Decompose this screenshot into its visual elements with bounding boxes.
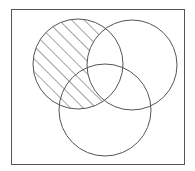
venn-diagram (0, 0, 195, 171)
shaded-region (0, 0, 195, 171)
